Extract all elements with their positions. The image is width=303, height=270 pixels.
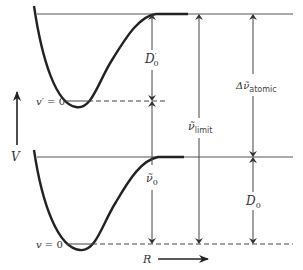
lower-potential-curve: [34, 150, 184, 250]
lower-v0-label: v = 0: [36, 239, 63, 250]
upper-potential-curve: [34, 6, 188, 107]
upper-v0-label: v′ = 0: [36, 96, 65, 107]
nu-limit-label: ν̃limit: [188, 120, 212, 135]
d0-label: D0: [245, 194, 261, 210]
d0-prime-label: D′0: [144, 51, 159, 68]
nu0-label: ν̃0: [146, 172, 158, 187]
v-axis-label: V: [11, 150, 21, 164]
potential-energy-diagram: V R v′ = 0 v = 0 D′0 ν̃0 ν̃limit Δν̃atom…: [0, 0, 303, 270]
delta-nu-atomic-label: Δν̃atomic: [235, 80, 277, 94]
r-axis-label: R: [142, 253, 151, 266]
